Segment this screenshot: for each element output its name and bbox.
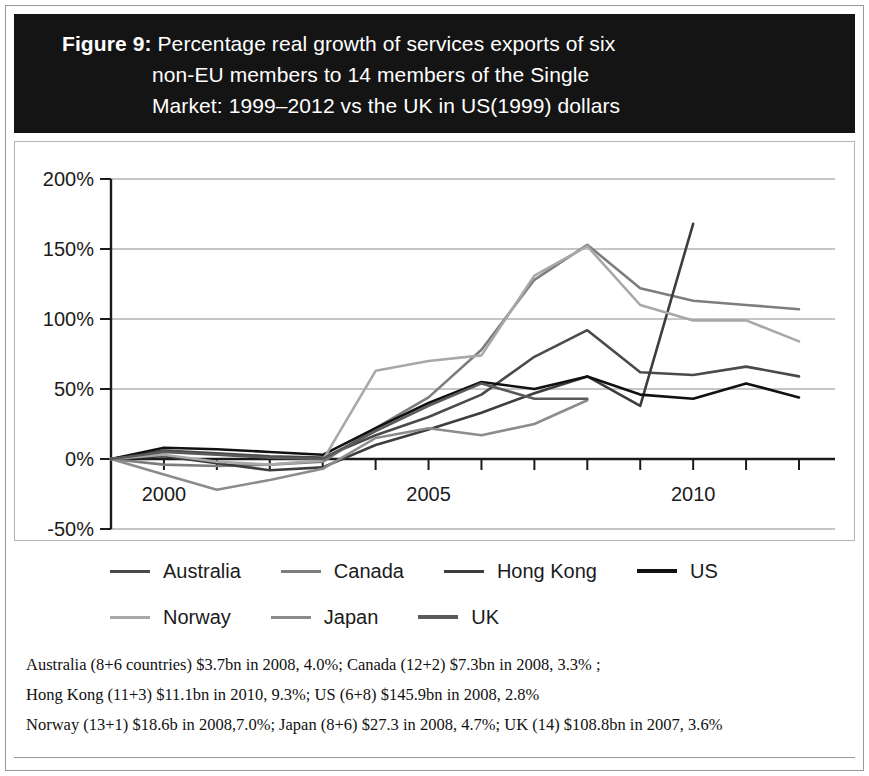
title-line-1-text: Percentage real growth of services expor…: [152, 32, 616, 55]
y-axis-tick-label: 150%: [43, 238, 94, 260]
legend-label: Hong Kong: [497, 560, 597, 583]
y-axis-ticks: [100, 179, 111, 529]
x-axis-tick-label: 2010: [671, 483, 716, 505]
y-axis-tick-labels: -50%0%50%100%150%200%: [43, 168, 94, 540]
legend-item[interactable]: Hong Kong: [444, 560, 597, 583]
legend-label: UK: [471, 606, 499, 629]
y-axis-tick-label: 200%: [43, 168, 94, 190]
legend-color-swatch: [271, 616, 311, 619]
legend-item[interactable]: UK: [418, 606, 499, 629]
title-line-3-text: Market: 1999–2012 vs the UK in US(1999) …: [44, 90, 825, 121]
legend-label: US: [690, 560, 718, 583]
legend-row-2: NorwayJapanUK: [14, 594, 855, 640]
legend-color-swatch: [444, 570, 484, 573]
x-axis-tick-label: 2000: [142, 483, 187, 505]
chart-plot-panel: -50%0%50%100%150%200% 200020052010: [14, 141, 855, 541]
legend-color-swatch: [110, 570, 150, 573]
legend-label: Norway: [163, 606, 231, 629]
y-axis-tick-label: 0%: [65, 448, 94, 470]
footnote-divider: [14, 757, 855, 758]
figure-title: Figure 9: Percentage real growth of serv…: [44, 28, 825, 121]
legend-color-swatch: [110, 616, 150, 619]
footnote-line: Hong Kong (11+3) $11.1bn in 2010, 9.3%; …: [26, 680, 846, 710]
x-axis-tick-label: 2005: [406, 483, 451, 505]
line-chart-svg: -50%0%50%100%150%200% 200020052010: [15, 142, 854, 540]
legend-item[interactable]: US: [637, 560, 718, 583]
footnote-line: Australia (8+6 countries) $3.7bn in 2008…: [26, 650, 846, 680]
chart-series-lines: [111, 224, 799, 490]
legend-label: Canada: [334, 560, 404, 583]
y-axis-tick-label: 100%: [43, 308, 94, 330]
chart-legend: AustraliaCanadaHong KongUS NorwayJapanUK: [14, 548, 855, 640]
x-axis-tick-labels: 200020052010: [142, 483, 716, 505]
footnote-line: Norway (13+1) $18.6b in 2008,7.0%; Japan…: [26, 710, 846, 740]
figure-title-banner: Figure 9: Percentage real growth of serv…: [14, 14, 855, 133]
figure-footnotes: Australia (8+6 countries) $3.7bn in 2008…: [26, 650, 846, 740]
y-axis-tick-label: 50%: [54, 378, 94, 400]
y-axis-tick-label: -50%: [47, 518, 94, 540]
legend-item[interactable]: Canada: [281, 560, 404, 583]
legend-label: Australia: [163, 560, 241, 583]
legend-label: Japan: [324, 606, 379, 629]
chart-axes: [111, 179, 835, 529]
legend-color-swatch: [281, 570, 321, 573]
legend-item[interactable]: Australia: [110, 560, 241, 583]
title-line-2-text: non-EU members to 14 members of the Sing…: [44, 59, 825, 90]
chart-gridlines: [110, 179, 835, 529]
legend-color-swatch: [637, 569, 677, 573]
figure-container: Figure 9: Percentage real growth of serv…: [0, 0, 869, 776]
legend-item[interactable]: Japan: [271, 606, 379, 629]
legend-row-1: AustraliaCanadaHong KongUS: [14, 548, 855, 594]
figure-number-label: Figure 9:: [62, 32, 152, 55]
legend-color-swatch: [418, 615, 458, 619]
legend-item[interactable]: Norway: [110, 606, 231, 629]
